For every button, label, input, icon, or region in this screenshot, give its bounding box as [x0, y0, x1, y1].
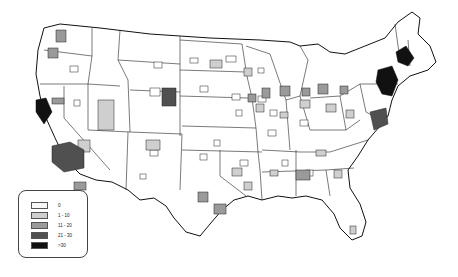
legend-item-1-10: 1 - 10: [31, 211, 70, 219]
legend-label: >30: [58, 243, 66, 248]
legend-item-21-30: 21 - 30: [31, 231, 72, 239]
legend-swatch-21-30: [31, 232, 48, 239]
legend-swatch-1-10: [31, 212, 48, 219]
legend-label: 21 - 30: [58, 233, 72, 238]
legend-swatch-11-20: [31, 222, 48, 229]
legend-item-11-20: 11 - 20: [31, 221, 72, 229]
map-legend: 0 1 - 10 11 - 20 21 - 30 >30: [18, 190, 88, 258]
legend-label: 0: [58, 203, 61, 208]
legend-label: 11 - 20: [58, 223, 72, 228]
legend-label: 1 - 10: [58, 213, 70, 218]
legend-item-0: 0: [31, 201, 61, 209]
legend-item-over-30: >30: [31, 241, 66, 249]
legend-swatch-over-30: [31, 242, 48, 249]
legend-swatch-0: [31, 202, 48, 209]
